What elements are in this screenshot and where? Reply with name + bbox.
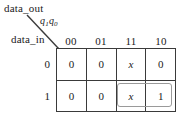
kmap-grid: 0 0 x 0 0 0 x 1 <box>56 48 176 112</box>
column-header-row: 00 01 11 10 <box>56 35 176 48</box>
column-header-01: 01 <box>86 35 116 48</box>
cell-r1-c11: x <box>116 81 146 112</box>
table-row: 0 0 x 1 <box>57 80 175 112</box>
karnaugh-map-figure: data_out data_in q1q0 00 01 11 10 0 1 0 … <box>0 0 186 122</box>
cell-r0-c11: x <box>116 49 146 80</box>
column-header-00: 00 <box>56 35 86 48</box>
cell-r0-c00: 0 <box>57 49 86 80</box>
row-header-0: 0 <box>36 48 52 80</box>
cell-r0-c01: 0 <box>86 49 116 80</box>
cell-r1-c00: 0 <box>57 81 86 112</box>
column-header-10: 10 <box>146 35 176 48</box>
output-variable-label: data_out <box>4 2 43 14</box>
table-row: 0 0 x 0 <box>57 49 175 80</box>
cell-r1-c10: 1 <box>145 81 175 112</box>
row-header-column: 0 1 <box>36 48 52 112</box>
cell-r1-c01: 0 <box>86 81 116 112</box>
cell-r0-c10: 0 <box>145 49 175 80</box>
axis-divider-diagonal-line <box>26 14 60 50</box>
column-header-11: 11 <box>116 35 146 48</box>
row-header-1: 1 <box>36 80 52 112</box>
